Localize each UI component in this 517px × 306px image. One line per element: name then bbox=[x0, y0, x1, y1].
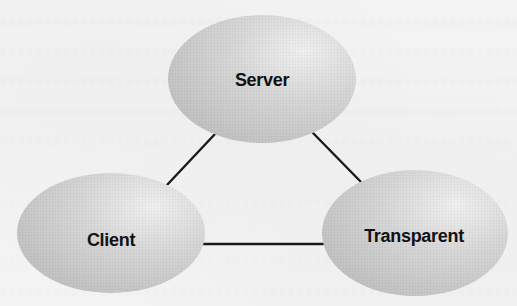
client-label: Client bbox=[87, 230, 136, 250]
edge-server-client bbox=[167, 134, 215, 185]
server-label: Server bbox=[235, 70, 290, 90]
node-transparent: Transparent bbox=[322, 170, 508, 296]
network-diagram: Server Client Transparent bbox=[0, 0, 517, 306]
transparent-label: Transparent bbox=[364, 226, 464, 246]
edge-server-transparent bbox=[313, 133, 361, 182]
node-client: Client bbox=[17, 173, 205, 293]
diagram-canvas: Server Client Transparent bbox=[0, 0, 517, 306]
node-server: Server bbox=[168, 15, 356, 143]
